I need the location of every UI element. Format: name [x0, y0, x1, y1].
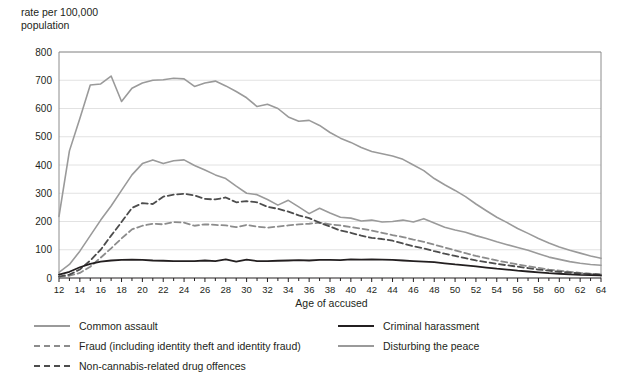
x-axis-tick-label: 30 — [241, 284, 252, 295]
x-axis-tick-label: 34 — [283, 284, 294, 295]
legend-column-left: Common assaultFraud (including identity … — [34, 316, 301, 375]
x-axis-tick-label: 22 — [158, 284, 169, 295]
legend-item-label: Non-cannabis-related drug offences — [79, 360, 246, 372]
x-axis-tick-label: 16 — [95, 284, 106, 295]
x-axis-tick-label: 14 — [75, 284, 86, 295]
series-line — [59, 76, 601, 258]
legend-column-right: Criminal harassmentDisturbing the peace — [338, 316, 479, 356]
x-axis-tick-label: 46 — [408, 284, 419, 295]
series-line — [59, 160, 601, 272]
y-axis-tick-label: 500 — [35, 131, 52, 142]
x-axis-tick-label: 42 — [366, 284, 377, 295]
legend-item[interactable]: Criminal harassment — [338, 316, 479, 336]
legend-item-label: Common assault — [79, 320, 158, 332]
x-axis-tick-label: 60 — [554, 284, 565, 295]
x-axis-title: Age of accused — [0, 297, 619, 309]
x-axis-tick-label: 38 — [325, 284, 336, 295]
y-axis-tick-label: 700 — [35, 75, 52, 86]
chart-legend: Common assaultFraud (including identity … — [0, 316, 619, 375]
legend-item[interactable]: Disturbing the peace — [338, 336, 479, 356]
legend-item-label: Fraud (including identity theft and iden… — [79, 340, 301, 352]
x-axis-tick-label: 32 — [262, 284, 273, 295]
x-axis-tick-label: 36 — [304, 284, 315, 295]
x-axis-tick-label: 54 — [491, 284, 502, 295]
legend-item[interactable]: Fraud (including identity theft and iden… — [34, 336, 301, 356]
y-axis-tick-label: 400 — [35, 160, 52, 171]
x-axis-tick-label: 24 — [179, 284, 190, 295]
y-axis-tick-label: 100 — [35, 244, 52, 255]
legend-item-label: Disturbing the peace — [383, 340, 479, 352]
x-axis-tick-label: 12 — [54, 284, 65, 295]
x-axis-tick-label: 62 — [575, 284, 586, 295]
x-axis-title-text: Age of accused — [295, 297, 367, 309]
x-axis-tick-label: 48 — [429, 284, 440, 295]
x-axis-tick-label: 44 — [387, 284, 398, 295]
x-axis-tick-label: 18 — [116, 284, 127, 295]
x-axis-tick-label: 64 — [596, 284, 607, 295]
x-axis-tick-label: 50 — [450, 284, 461, 295]
y-axis-tick-label: 800 — [35, 47, 52, 58]
chart-container: rate per 100,000 population 121416182022… — [0, 0, 619, 375]
x-axis-tick-label: 20 — [137, 284, 148, 295]
x-axis-tick-label: 52 — [471, 284, 482, 295]
y-axis-tick-label: 600 — [35, 103, 52, 114]
x-axis-tick-label: 40 — [346, 284, 357, 295]
y-axis-tick-label: 200 — [35, 216, 52, 227]
x-axis-tick-label: 56 — [512, 284, 523, 295]
y-axis-tick-label: 0 — [46, 273, 52, 284]
legend-item-label: Criminal harassment — [383, 320, 479, 332]
x-axis-tick-label: 58 — [533, 284, 544, 295]
legend-item[interactable]: Non-cannabis-related drug offences — [34, 356, 301, 375]
y-axis-tick-label: 300 — [35, 188, 52, 199]
x-axis-tick-label: 26 — [200, 284, 211, 295]
legend-item[interactable]: Common assault — [34, 316, 301, 336]
x-axis-tick-label: 28 — [220, 284, 231, 295]
